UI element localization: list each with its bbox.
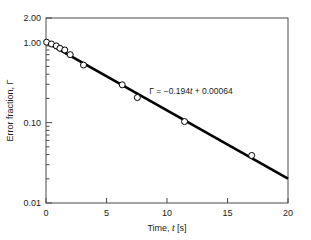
scatter-plot-svg: 051015200.010.101.002.00 Γ = −0.194t + 0… (0, 0, 311, 240)
data-point-marker (62, 47, 68, 53)
axis-titles: Time, t [s]Error fraction, Γ (5, 79, 187, 233)
y-axis-title: Error fraction, Γ (5, 79, 15, 141)
equation-annotation: Γ = −0.194t + 0.00064 (149, 86, 233, 96)
y-tick-label: 0.01 (23, 198, 41, 208)
data-point-marker (134, 95, 140, 101)
data-point-marker (249, 152, 255, 158)
x-tick-label: 20 (283, 208, 293, 218)
x-tick-label: 5 (104, 208, 109, 218)
chart-figure: 051015200.010.101.002.00 Γ = −0.194t + 0… (0, 0, 311, 240)
x-tick-label: 10 (162, 208, 172, 218)
axis-tick-labels: 051015200.010.101.002.00 (23, 13, 293, 218)
y-tick-label: 0.10 (23, 118, 41, 128)
data-point-marker (119, 82, 125, 88)
x-tick-label: 0 (43, 208, 48, 218)
fit-equation-text: Γ = −0.194t + 0.00064 (149, 86, 233, 96)
data-point-marker (182, 119, 188, 125)
y-tick-label: 1.00 (23, 38, 41, 48)
x-axis-title: Time, t [s] (147, 223, 186, 233)
data-point-marker (67, 52, 73, 58)
x-tick-label: 15 (222, 208, 232, 218)
data-point-marker (81, 62, 87, 68)
y-tick-label: 2.00 (23, 13, 41, 23)
